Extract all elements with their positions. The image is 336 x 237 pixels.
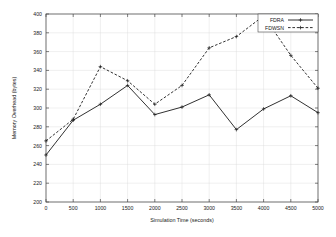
y-tick-label: 240 [33,161,42,167]
x-tick-label: 3000 [203,205,215,211]
y-tick-label: 300 [33,105,42,111]
y-tick-label: 220 [33,180,42,186]
y-tick-label: 200 [33,199,42,205]
x-tick-label: 3500 [231,205,243,211]
chart-legend: FDRAFDWSN [258,14,318,32]
y-tick-label: 380 [33,30,42,36]
x-tick-label: 1000 [95,205,107,211]
legend-label-fdra: FDRA [270,17,285,23]
x-tick-label: 5000 [312,205,324,211]
line-chart: 200220240260280300320340360380400 050010… [0,0,336,237]
y-axis-label: Memory Overhead (bytes) [11,76,17,139]
x-tick-label: 2000 [149,205,161,211]
x-tick-label: 0 [45,205,48,211]
x-tick-label: 2500 [176,205,188,211]
x-tick-label: 500 [69,205,78,211]
x-tick-label: 4500 [285,205,297,211]
y-tick-label: 280 [33,124,42,130]
chart-figure: 200220240260280300320340360380400 050010… [0,0,336,237]
y-tick-label: 400 [33,11,42,17]
y-tick-label: 320 [33,86,42,92]
x-tick-label: 1500 [122,205,134,211]
y-tick-label: 340 [33,67,42,73]
x-tick-label: 4000 [258,205,270,211]
legend-label-fdwsn: FDWSN [265,25,284,31]
y-tick-label: 360 [33,49,42,55]
x-axis-label: Simulation Time (seconds) [150,217,214,223]
y-tick-label: 260 [33,143,42,149]
